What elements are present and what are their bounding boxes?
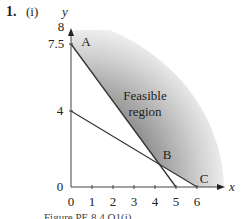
svg-text:B: B [163, 147, 172, 162]
svg-text:4: 4 [57, 103, 64, 118]
figure-caption: Figure PE 8.4.Q1(i) [44, 211, 131, 219]
svg-text:Feasible: Feasible [123, 88, 167, 103]
svg-text:1: 1 [89, 194, 96, 209]
svg-text:4: 4 [152, 194, 159, 209]
svg-text:A: A [81, 34, 91, 49]
svg-text:5: 5 [173, 194, 180, 209]
chart: 012 345 6 04 7.58 y x ABC Feasibleregion [0, 0, 241, 219]
svg-text:2: 2 [110, 194, 117, 209]
svg-text:region: region [128, 104, 162, 119]
svg-text:3: 3 [131, 194, 138, 209]
svg-text:7.5: 7.5 [48, 36, 64, 51]
svg-text:0: 0 [57, 179, 64, 194]
svg-text:8: 8 [58, 19, 65, 34]
svg-text:0: 0 [68, 194, 75, 209]
svg-text:C: C [200, 171, 209, 186]
svg-text:6: 6 [194, 194, 201, 209]
svg-text:x: x [228, 179, 235, 194]
svg-text:y: y [60, 4, 68, 19]
